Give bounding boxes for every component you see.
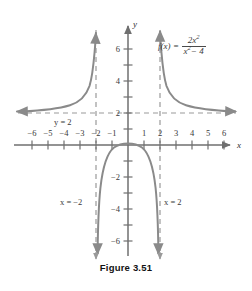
y-axis-label: y <box>132 19 137 29</box>
x-tick-label: 5 <box>206 128 210 138</box>
horizontal-asymptote-label: y = 2 <box>54 117 72 127</box>
y-tick-label: 6 <box>116 44 120 54</box>
function-formula: f(x) = 2x2 x2− 4 <box>158 36 206 57</box>
vertical-asymptote-right-label: x = 2 <box>164 197 182 207</box>
y-tick-label: 2 <box>116 108 120 118</box>
figure-caption: Figure 3.51 <box>0 262 252 273</box>
x-tick-label: 6 <box>222 128 226 138</box>
y-tick-label: −4 <box>111 204 121 214</box>
function-name: f(x) <box>158 41 171 51</box>
numerator-exponent: 2 <box>196 33 199 40</box>
x-axis-label: x <box>236 140 241 150</box>
y-tick-label: −2 <box>111 172 120 182</box>
fraction: 2x2 x2− 4 <box>182 36 206 57</box>
x-tick-label: −5 <box>43 128 52 138</box>
x-tick-label: −4 <box>59 128 69 138</box>
vertical-asymptote-left-label: x = −2 <box>60 197 82 207</box>
x-tick-label: −1 <box>107 128 116 138</box>
fraction-denominator: x2− 4 <box>182 47 206 57</box>
x-tick-label: 2 <box>158 128 162 138</box>
curve-left-branch <box>22 33 96 112</box>
x-tick-label: 3 <box>174 128 178 138</box>
x-tick-label: 1 <box>142 128 146 138</box>
graph-canvas: −6 −5 −4 −3 −2 −1 1 2 3 4 5 6 6 4 2 −2 −… <box>0 0 252 266</box>
y-tick-label: −6 <box>111 236 120 246</box>
figure-container: −6 −5 −4 −3 −2 −1 1 2 3 4 5 6 6 4 2 −2 −… <box>0 0 252 291</box>
x-tick-label: 4 <box>190 128 195 138</box>
y-tick-label: 4 <box>116 76 121 86</box>
equals-sign: = <box>174 41 179 51</box>
x-tick-label: −2 <box>91 128 100 138</box>
x-tick-label: −3 <box>75 128 84 138</box>
denominator-rest: − 4 <box>191 46 204 56</box>
x-tick-label: −6 <box>27 128 36 138</box>
